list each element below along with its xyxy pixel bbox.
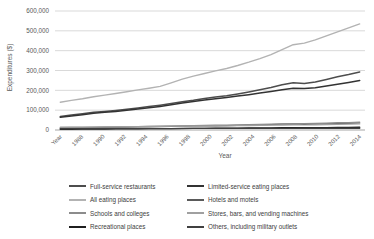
legend-item: All eating places [69,196,187,204]
legend-item: Hotels and motels [187,196,308,204]
legend-line-swatch [69,212,86,214]
x-axis-tick-label: 2010 [306,133,320,147]
y-axis-tick-label: 200,000 [26,87,49,94]
x-axis-tick-label: 1998 [178,133,192,147]
y-axis-tick-label: 500,000 [26,27,49,34]
legend-label: Others, including military outlets [208,223,297,230]
y-axis-tick-label: 300,000 [26,67,49,74]
series-line-limited-service-eating-places [60,81,359,118]
legend-item: Stores, bars, and vending machines [187,209,308,217]
legend-item: Limited-service eating places [187,182,308,190]
legend-item: Recreational places [69,223,187,231]
y-axis-tick-label: 0 [45,126,49,133]
y-axis-tick-label: 100,000 [26,106,49,113]
legend-label: Schools and colleges [90,210,150,217]
legend-item: Full-service restaurants [69,182,187,190]
legend-item: Schools and colleges [69,209,187,217]
legend-line-swatch [69,199,86,201]
x-axis-tick-label: 1994 [135,133,149,147]
legend-label: Full-service restaurants [90,183,155,190]
legend-label: Hotels and motels [208,196,258,203]
series-line-stores-bars-and-vending-machines [60,124,359,127]
expenditures-line-chart: 0100,000200,000300,000400,000500,000600,… [0,0,374,239]
legend-line-swatch [187,199,204,201]
plot-area: 0100,000200,000300,000400,000500,000600,… [0,0,374,178]
x-axis-tick-label: 2006 [263,133,277,147]
x-axis-tick-label: 1996 [156,133,170,147]
y-axis-tick-label: 600,000 [26,7,49,14]
legend-line-swatch [187,212,204,214]
series-line-others-including-military-outlets [60,128,359,129]
y-axis-tick-label: 400,000 [26,47,49,54]
x-axis-tick-label: 2012 [327,133,341,147]
x-axis-tick-label: 2004 [242,133,256,147]
x-axis-tick-label: 1992 [113,133,127,147]
x-axis-tick-label: 2014 [349,133,363,147]
legend-label: Limited-service eating places [208,183,289,190]
x-axis-tick-label: 1988 [71,133,85,147]
legend-label: Recreational places [90,223,145,230]
x-axis-tick-label: 1990 [92,133,106,147]
legend-line-swatch [69,185,86,187]
legend-line-swatch [69,226,86,228]
legend-line-swatch [187,226,204,228]
legend-label: Stores, bars, and vending machines [208,210,308,217]
x-axis-tick-label: Year [50,133,63,146]
x-axis-tick-label: 2000 [199,133,213,147]
legend-line-swatch [187,185,204,187]
legend-label: All eating places [90,196,136,203]
chart-legend: Full-service restaurantsLimited-service … [69,182,308,231]
x-axis-tick-label: 2002 [220,133,234,147]
legend-item: Others, including military outlets [187,223,308,231]
x-axis-tick-label: 2008 [285,133,299,147]
